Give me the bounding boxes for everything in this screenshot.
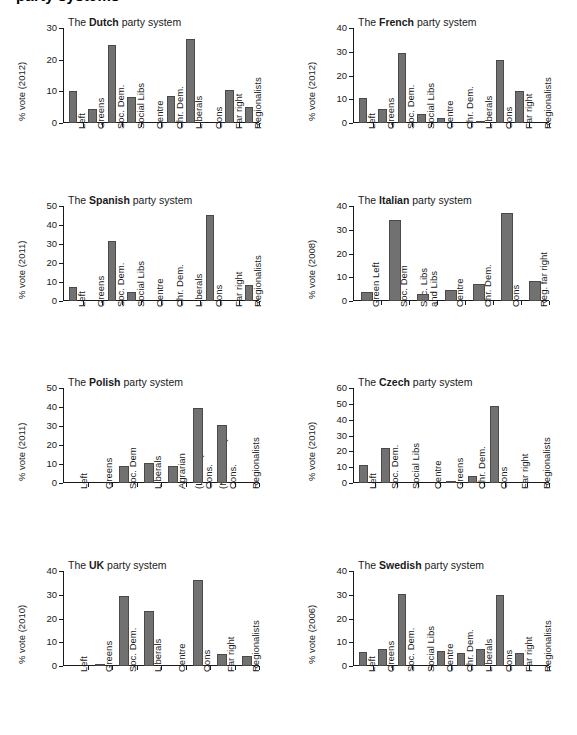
y-tick — [349, 123, 353, 124]
y-tick-label: 40 — [46, 566, 57, 576]
bar — [359, 652, 367, 666]
x-tick — [392, 123, 393, 127]
y-tick-label: 20 — [46, 55, 57, 65]
y-axis-line — [63, 206, 64, 301]
y-tick — [349, 666, 353, 667]
y-axis-line — [63, 28, 64, 123]
chart-title-suffix: party system — [414, 16, 476, 28]
bar — [119, 596, 129, 666]
bar — [476, 121, 484, 123]
y-tick-label: 60 — [336, 383, 347, 393]
chart-panel-swedish: The Swedish party system010203040% vote … — [290, 549, 577, 735]
y-tick — [59, 483, 63, 484]
y-tick-label: 40 — [336, 566, 347, 576]
bar — [457, 653, 465, 666]
y-tick-label: 20 — [336, 71, 347, 81]
x-tick — [239, 123, 240, 127]
y-tick — [349, 76, 353, 77]
y-tick-label: 0 — [342, 296, 347, 306]
y-tick-label: 10 — [46, 637, 57, 647]
x-tick — [462, 483, 463, 487]
bar — [193, 580, 203, 666]
x-tick — [549, 123, 550, 127]
chart-title: The Italian party system — [358, 195, 472, 206]
chart-title-country: Swedish — [379, 559, 422, 571]
bar — [417, 114, 425, 123]
bar — [378, 109, 386, 123]
y-axis-line — [63, 571, 64, 666]
y-axis-line — [353, 28, 354, 123]
chart-title-suffix: party system — [422, 559, 484, 571]
y-tick — [349, 420, 353, 421]
x-tick — [200, 301, 201, 305]
chart-title-suffix: party system — [104, 559, 166, 571]
x-tick — [549, 666, 550, 670]
x-tick — [529, 123, 530, 127]
charts-grid: The Dutch party system0102030% vote (201… — [0, 6, 577, 735]
chart-title-suffix: party system — [119, 16, 181, 28]
y-tick-label: 10 — [46, 459, 57, 469]
x-tick — [510, 666, 511, 670]
y-axis-line — [353, 206, 354, 301]
x-tick — [431, 123, 432, 127]
x-tick — [181, 301, 182, 305]
y-tick — [349, 52, 353, 53]
chart-title: The Czech party system — [358, 377, 472, 388]
y-tick-label: 0 — [342, 118, 347, 128]
y-tick — [349, 571, 353, 572]
y-tick — [349, 483, 353, 484]
x-tick — [161, 483, 162, 487]
y-tick-label: 50 — [46, 383, 57, 393]
y-tick-label: 0 — [52, 478, 57, 488]
plot-area — [63, 571, 259, 666]
bar — [446, 481, 455, 483]
y-tick — [349, 388, 353, 389]
chart-title: The Spanish party system — [68, 195, 192, 206]
x-tick — [122, 123, 123, 127]
x-tick — [239, 301, 240, 305]
y-tick — [59, 282, 63, 283]
y-tick-label: 20 — [336, 446, 347, 456]
x-tick — [259, 123, 260, 127]
bar — [496, 595, 504, 666]
y-tick — [349, 277, 353, 278]
chart-title: The French party system — [358, 17, 476, 28]
bar — [95, 664, 105, 666]
y-tick — [59, 123, 63, 124]
y-tick-label: 0 — [342, 661, 347, 671]
bar — [245, 285, 253, 301]
y-tick — [59, 206, 63, 207]
chart-title-country: Spanish — [89, 194, 130, 206]
x-tick — [490, 666, 491, 670]
x-tick — [431, 666, 432, 670]
chart-panel-czech: The Czech party system0102030405060% vot… — [290, 366, 577, 549]
chart-title-suffix: party system — [130, 194, 192, 206]
y-tick — [59, 244, 63, 245]
y-tick-label: 40 — [336, 415, 347, 425]
bar — [437, 118, 445, 123]
y-axis-label: % vote (2012) — [17, 62, 27, 121]
x-tick — [375, 483, 376, 487]
y-axis-label: % vote (2006) — [307, 605, 317, 664]
x-tick — [437, 301, 438, 305]
x-tick — [259, 666, 260, 670]
x-tick — [88, 483, 89, 487]
y-tick-label: 20 — [46, 258, 57, 268]
y-tick — [59, 91, 63, 92]
plot-area — [353, 206, 549, 301]
x-tick — [112, 483, 113, 487]
chart-title: The Swedish party system — [358, 560, 484, 571]
chart-title-suffix: party system — [410, 376, 472, 388]
bar — [108, 241, 116, 301]
y-tick-label: 10 — [336, 272, 347, 282]
bar — [515, 653, 523, 666]
y-tick — [59, 407, 63, 408]
y-tick-label: 0 — [52, 118, 57, 128]
y-tick-label: 20 — [336, 614, 347, 624]
chart-title-country: Italian — [379, 194, 409, 206]
x-tick — [137, 666, 138, 670]
x-tick — [409, 301, 410, 305]
x-tick — [220, 123, 221, 127]
y-tick — [349, 254, 353, 255]
y-tick — [349, 436, 353, 437]
